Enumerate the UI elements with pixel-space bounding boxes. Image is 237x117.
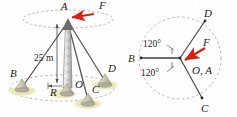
label-anchor-c: C xyxy=(92,83,100,95)
plan-node-b xyxy=(140,57,143,60)
angle-leader-lower xyxy=(167,66,174,72)
figure-container: A F B D C O R 25 m B D C F O, A xyxy=(0,0,237,117)
plan-label-d: D xyxy=(203,7,212,19)
force-arrow-side xyxy=(72,14,94,18)
plan-node-center xyxy=(179,57,182,60)
plan-label-f: F xyxy=(202,36,210,48)
label-apex-a: A xyxy=(60,0,68,12)
label-anchor-b: B xyxy=(10,67,17,79)
label-anchor-d: D xyxy=(107,62,116,74)
angle-leader-upper xyxy=(167,45,174,50)
side-view-group: A F B D C O R 25 m xyxy=(8,0,118,109)
plan-node-d xyxy=(204,20,207,23)
label-force-f: F xyxy=(98,0,106,11)
plan-cable-to-d xyxy=(180,21,205,58)
force-arrow-plan xyxy=(185,48,205,60)
plan-label-center-oa: O, A xyxy=(192,64,212,76)
diagram-svg: A F B D C O R 25 m B D C F O, A xyxy=(0,0,237,117)
mast-apex xyxy=(62,18,74,30)
height-dim-arrow-bottom xyxy=(55,79,58,83)
label-height-25m: 25 m xyxy=(34,53,54,63)
plan-node-c xyxy=(201,97,204,100)
cable-a-to-d xyxy=(69,23,105,81)
plan-label-angle-upper: 120° xyxy=(143,39,161,49)
label-center-o: O xyxy=(75,78,83,90)
plan-label-c: C xyxy=(201,102,209,114)
height-dim-arrow-top xyxy=(55,24,58,28)
plan-label-b: B xyxy=(128,52,135,64)
label-radius-r: R xyxy=(49,86,57,98)
plan-label-angle-lower: 120° xyxy=(141,68,159,78)
top-view-group: B D C F O, A 120° 120° xyxy=(128,7,221,114)
anchor-d xyxy=(98,74,112,87)
